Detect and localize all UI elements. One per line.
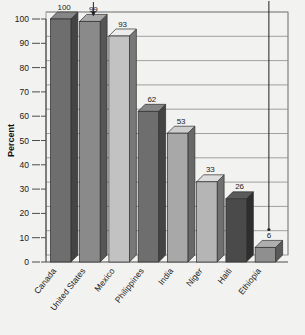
bar-front-face — [197, 182, 217, 262]
y-tick-label-80: 80 — [20, 63, 30, 73]
y-tick-label-70: 70 — [20, 87, 30, 97]
x-category-label: Ethiopia — [236, 266, 263, 297]
bar-side-face — [188, 126, 195, 262]
x-category-label: Mexico — [92, 266, 117, 294]
y-tick-label-100: 100 — [15, 14, 29, 24]
y-axis-title: Percent — [6, 124, 16, 157]
bar-chart: 0102030405060708090100Percent100Canada99… — [0, 0, 305, 335]
bar-niger — [197, 175, 224, 262]
bar-united-states — [80, 14, 107, 262]
bar-ethiopia — [255, 240, 282, 262]
y-tick-label-10: 10 — [20, 233, 30, 243]
x-category-label: Haiti — [215, 266, 233, 286]
y-tick-label-60: 60 — [20, 111, 30, 121]
bar-side-face — [217, 175, 224, 262]
pointer-to-ethiopia-dot — [267, 228, 270, 231]
bar-canada — [50, 12, 77, 262]
bar-side-face — [71, 12, 78, 262]
bar-front-face — [255, 247, 275, 262]
bar-front-face — [109, 36, 129, 262]
bar-front-face — [50, 19, 70, 262]
y-tick-label-0: 0 — [24, 257, 29, 267]
bar-side-face — [159, 104, 166, 262]
bar-value-label: 26 — [235, 182, 244, 191]
y-tick-label-90: 90 — [20, 38, 30, 48]
y-tick-label-50: 50 — [20, 136, 30, 146]
x-category-label: Canada — [32, 266, 58, 296]
bar-front-face — [80, 21, 100, 262]
y-tick-label-20: 20 — [20, 208, 30, 218]
bar-front-face — [226, 199, 246, 262]
bar-front-face — [138, 111, 158, 262]
bar-value-label: 33 — [206, 165, 215, 174]
bar-mexico — [109, 29, 136, 262]
x-category-label: Philippines — [113, 266, 146, 305]
bar-side-face — [246, 192, 253, 262]
bar-value-label: 53 — [177, 117, 186, 126]
bar-haiti — [226, 192, 253, 262]
bar-philippines — [138, 104, 165, 262]
y-tick-label-30: 30 — [20, 184, 30, 194]
x-category-label: Niger — [184, 266, 204, 288]
bar-value-label: 93 — [118, 20, 127, 29]
bar-value-label: 62 — [147, 95, 156, 104]
x-category-label: India — [156, 266, 175, 287]
bar-side-face — [100, 14, 107, 262]
bar-value-label: 100 — [57, 3, 71, 12]
bar-value-label: 6 — [267, 231, 272, 240]
bar-front-face — [167, 133, 187, 262]
bar-side-face — [129, 29, 136, 262]
chart-canvas: 0102030405060708090100Percent100Canada99… — [0, 0, 305, 335]
bar-india — [167, 126, 194, 262]
y-tick-label-40: 40 — [20, 160, 30, 170]
